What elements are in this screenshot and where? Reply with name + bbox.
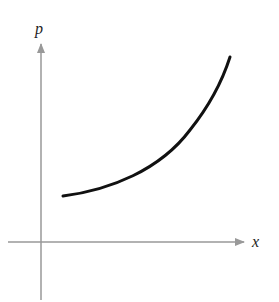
x-axis-label: x — [251, 233, 259, 250]
curve — [63, 57, 230, 196]
chart: p x — [0, 0, 279, 302]
y-axis-label: p — [34, 20, 43, 38]
